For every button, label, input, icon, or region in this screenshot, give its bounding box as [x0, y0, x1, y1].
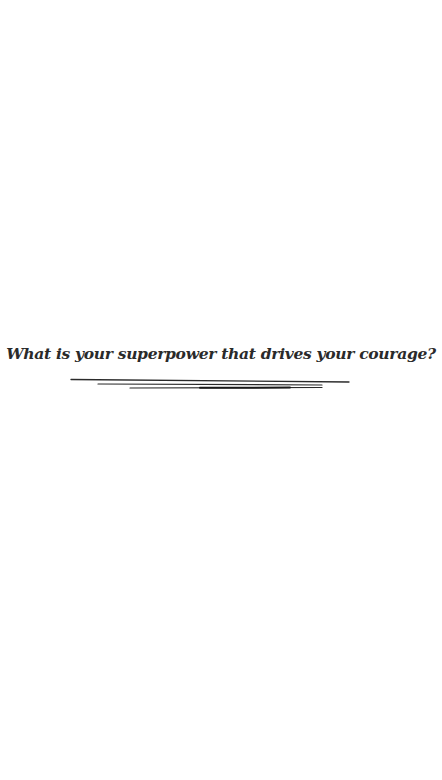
underline-stroke-2 [98, 384, 322, 385]
underline-strokes-decoration [0, 0, 442, 780]
underline-stroke-1 [71, 380, 349, 383]
